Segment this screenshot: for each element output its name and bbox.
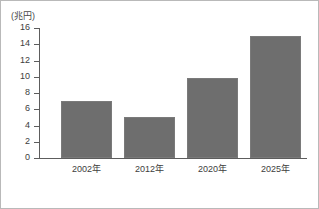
y-axis-tick [34, 109, 39, 110]
y-axis-tick-label-text: 4 [1, 121, 30, 130]
y-axis-tick [34, 142, 39, 143]
y-axis-tick-label: 6 [1, 104, 30, 114]
y-axis-tick-label: 0 [1, 153, 30, 163]
y-axis-tick [34, 28, 39, 29]
y-axis-tick-label-text: 0 [1, 153, 30, 162]
y-axis-tick-label-text: 6 [1, 104, 30, 113]
y-axis-tick [34, 126, 39, 127]
bar [61, 101, 112, 158]
x-axis-tick-label: 2012年 [118, 164, 181, 175]
y-axis-tick [34, 158, 39, 159]
bar [187, 78, 238, 158]
y-axis-tick-label-text: 14 [1, 39, 30, 48]
bar-chart-figure: (兆円) 1614121086420 2002年2012年2020年2025年 [0, 0, 319, 209]
y-axis-tick [34, 61, 39, 62]
y-axis-line [39, 28, 40, 159]
x-axis-tick-label: 2002年 [55, 164, 118, 175]
y-axis-tick [34, 77, 39, 78]
plot-area: 1614121086420 2002年2012年2020年2025年 [1, 1, 319, 209]
y-axis-tick-label: 14 [1, 39, 30, 49]
y-axis-tick-label: 8 [1, 88, 30, 98]
y-axis-tick-label: 4 [1, 121, 30, 131]
x-axis-line [39, 158, 307, 159]
x-axis-tick-label: 2020年 [181, 164, 244, 175]
y-axis-tick-label-text: 12 [1, 56, 30, 65]
y-axis-tick [34, 44, 39, 45]
y-axis-tick-label-text: 10 [1, 72, 30, 81]
bar [124, 117, 175, 158]
x-axis-tick-label: 2025年 [244, 164, 307, 175]
y-axis-tick-label-text: 16 [1, 23, 30, 32]
y-axis-tick-label: 16 [1, 23, 30, 33]
y-axis-tick-label-text: 8 [1, 88, 30, 97]
y-axis-tick-label: 2 [1, 137, 30, 147]
y-axis-tick-label: 10 [1, 72, 30, 82]
y-axis-tick [34, 93, 39, 94]
bar [250, 36, 301, 158]
y-axis-tick-label: 12 [1, 56, 30, 66]
y-axis-tick-label-text: 2 [1, 137, 30, 146]
